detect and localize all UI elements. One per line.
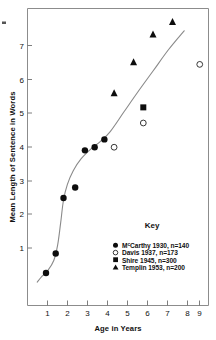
- figure-background: [0, 0, 216, 340]
- scatter-plot: 1 2 3 4 5 6 7 1 2 3 4 5 6 7: [0, 0, 216, 340]
- x-tick-label: 6: [145, 309, 150, 318]
- data-point-open-circle: [111, 144, 117, 150]
- x-tick-label: 5: [125, 309, 130, 318]
- legend-label-templin: Templin 1953, n=200: [122, 264, 185, 272]
- data-point-filled-circle: [43, 270, 49, 276]
- data-point-open-circle: [140, 120, 146, 126]
- y-tick-label: 7: [20, 42, 25, 51]
- y-tick-label: 6: [20, 76, 25, 85]
- data-point-filled-circle: [72, 184, 78, 190]
- x-tick-label: 2: [65, 309, 70, 318]
- data-point-filled-circle: [60, 195, 66, 201]
- y-tick-label: 5: [20, 109, 25, 118]
- x-tick-label: 4: [105, 309, 110, 318]
- data-point-filled-circle: [101, 136, 107, 142]
- data-point-filled-square: [140, 104, 146, 110]
- data-point-open-circle: [197, 61, 203, 67]
- x-tick-label: 8: [185, 309, 190, 318]
- legend-marker-filled-circle: [113, 243, 118, 248]
- y-tick-label: 1: [20, 244, 25, 253]
- legend-marker-open-circle: [113, 250, 118, 255]
- data-point-filled-circle: [91, 144, 97, 150]
- x-tick-label: 9: [197, 309, 202, 318]
- x-tick-label: 3: [85, 309, 90, 318]
- x-tick-label: 7: [165, 309, 170, 318]
- data-point-filled-circle: [82, 147, 88, 153]
- y-tick-label: 2: [20, 210, 25, 219]
- edge-artifact-mark: [2, 22, 6, 25]
- figure-container: 1 2 3 4 5 6 7 1 2 3 4 5 6 7: [0, 0, 216, 340]
- y-tick-label: 4: [20, 143, 25, 152]
- y-tick-label: 3: [20, 177, 25, 186]
- x-axis-title: Age in Years: [94, 324, 141, 333]
- legend-title: Key: [145, 221, 160, 230]
- y-axis-title: Mean Length of Sentence in Words: [8, 91, 17, 222]
- x-tick-label: 1: [45, 309, 50, 318]
- data-point-filled-circle: [53, 250, 59, 256]
- legend-marker-filled-square: [113, 257, 118, 262]
